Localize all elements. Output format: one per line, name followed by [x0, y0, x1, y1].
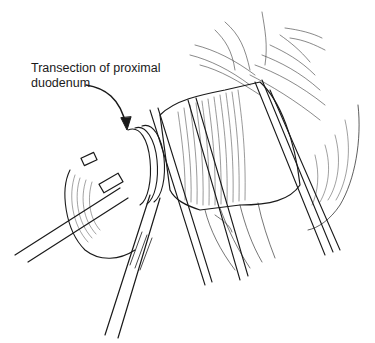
upper-organ-hatching: [190, 12, 325, 120]
duodenum-body: [160, 82, 300, 210]
illustration-canvas: Transection of proximal duodenum: [0, 0, 375, 343]
mesentery-vessels: [205, 203, 275, 270]
leader-arrow: [86, 85, 131, 130]
transection-ring: [128, 125, 165, 205]
annotation-line-2: duodenum: [31, 76, 160, 91]
annotation-label: Transection of proximal duodenum: [31, 61, 160, 91]
annotation-line-1: Transection of proximal: [31, 61, 160, 76]
clamp-handles: [15, 152, 160, 338]
duodenum-transection-drawing: [0, 0, 375, 343]
